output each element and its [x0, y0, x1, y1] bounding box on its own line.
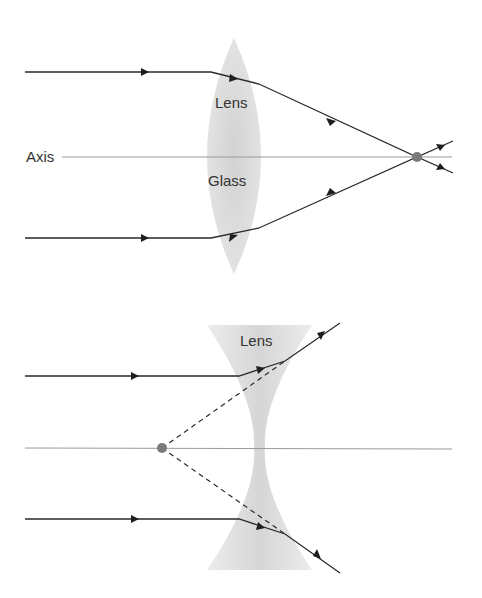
ray-arrowheads [141, 68, 445, 242]
virtual-focal-point [157, 443, 167, 453]
arrow-icon [131, 372, 139, 380]
concave-lens-shape [207, 325, 312, 570]
glass-label: Glass [208, 172, 246, 189]
arrow-icon [313, 549, 321, 559]
arrow-icon [326, 188, 336, 196]
axis-label: Axis [26, 148, 54, 165]
lens-diagram: Axis Lens Glass Lens [0, 0, 482, 598]
diverging-lens-diagram: Lens [25, 323, 452, 573]
arrow-icon [131, 515, 139, 523]
arrow-icon [141, 68, 149, 76]
lens-label: Lens [240, 332, 273, 349]
converging-lens-diagram: Axis Lens Glass [25, 38, 453, 274]
arrow-icon [141, 234, 149, 242]
optical-axis [25, 448, 452, 449]
lens-label: Lens [215, 94, 248, 111]
focal-point [412, 152, 422, 162]
